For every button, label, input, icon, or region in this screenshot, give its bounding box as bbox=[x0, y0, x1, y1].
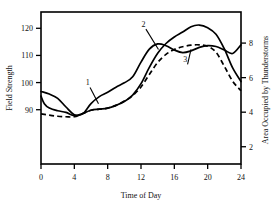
x-axis-title: Time of Day bbox=[121, 191, 162, 200]
y-tick-label: 90 bbox=[25, 106, 33, 115]
x-tick-label: 12 bbox=[137, 173, 145, 182]
y-axis-right-title: Area Occupied by Thunderstorms bbox=[261, 36, 270, 145]
y2-tick-label: 6 bbox=[249, 74, 253, 83]
curve-label-1: 1 bbox=[86, 78, 90, 87]
y-tick-label: 100 bbox=[21, 79, 33, 88]
chart-figure: 04812162024 90100110120 2468 123 Time of… bbox=[0, 0, 278, 208]
x-tick-label: 8 bbox=[106, 173, 110, 182]
curve-label-3: 3 bbox=[183, 55, 187, 64]
y-tick-label: 110 bbox=[21, 51, 33, 60]
field-strength-thunderstorm-chart: 04812162024 90100110120 2468 123 Time of… bbox=[0, 0, 278, 208]
y2-tick-label: 4 bbox=[249, 108, 253, 117]
y2-tick-label: 8 bbox=[249, 39, 253, 48]
x-tick-label: 24 bbox=[237, 173, 245, 182]
x-tick-label: 20 bbox=[204, 173, 212, 182]
x-tick-label: 4 bbox=[72, 173, 76, 182]
y-tick-label: 120 bbox=[21, 24, 33, 33]
y-axis-left-title: Field Strength bbox=[5, 65, 14, 111]
x-tick-label: 16 bbox=[170, 173, 178, 182]
curve-label-2: 2 bbox=[142, 20, 146, 29]
y2-tick-label: 2 bbox=[249, 143, 253, 152]
x-tick-label: 0 bbox=[39, 173, 43, 182]
